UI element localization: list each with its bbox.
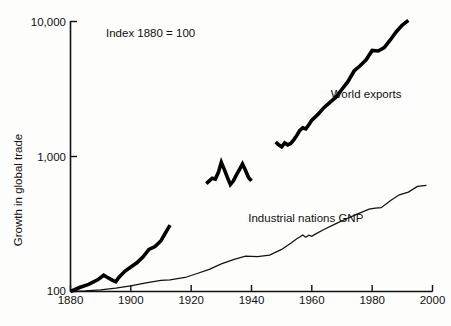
series-label-industrial-nations-gnp: Industrial nations GNP: [248, 212, 363, 224]
growth-in-global-trade-chart: Growth in global trade 10,000 1,000 100 …: [0, 0, 451, 326]
x-tick-label-1880: 1880: [58, 294, 84, 306]
x-tick-label-1900: 1900: [118, 294, 144, 306]
series-path-world-exports-2: [276, 20, 409, 146]
x-tick-label-2000: 2000: [420, 294, 446, 306]
series-layer: [71, 20, 427, 291]
series-path-world-exports-1: [206, 162, 251, 184]
y-tick-label-10000: 10,000: [31, 16, 66, 28]
chart-container: Growth in global trade 10,000 1,000 100 …: [0, 0, 451, 326]
index-annotation: Index 1880 = 100: [106, 27, 195, 39]
y-axis-title: Growth in global trade: [12, 134, 24, 247]
series-path-industrial-nations-gnp-0: [71, 185, 427, 291]
x-tick-label-1980: 1980: [359, 294, 385, 306]
x-tick-label-1960: 1960: [299, 294, 325, 306]
x-axis-ticks: [71, 285, 433, 292]
x-tick-label-1920: 1920: [178, 294, 204, 306]
series-label-world-exports: World exports: [331, 88, 402, 100]
y-axis-ticks: [71, 22, 78, 292]
y-tick-label-1000: 1,000: [37, 151, 66, 163]
x-tick-label-1940: 1940: [239, 294, 265, 306]
